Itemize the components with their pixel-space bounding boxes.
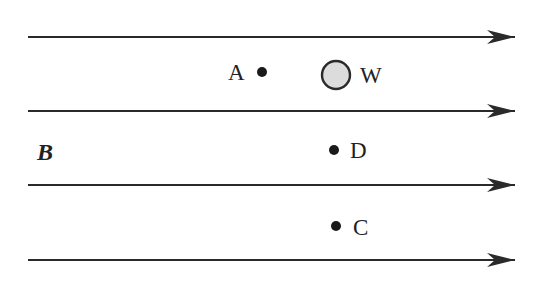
point-a-label: A bbox=[228, 60, 245, 85]
wire-label: W bbox=[360, 63, 382, 88]
field-lines bbox=[28, 37, 515, 260]
wire-circle-icon bbox=[322, 61, 350, 89]
point-c: C bbox=[331, 215, 368, 240]
magnetic-field-diagram: B A W D C bbox=[0, 0, 537, 288]
field-label-b: B bbox=[36, 139, 53, 165]
point-c-dot bbox=[331, 221, 341, 231]
wire-w: W bbox=[322, 61, 382, 89]
point-d: D bbox=[329, 138, 367, 163]
point-a-dot bbox=[257, 67, 267, 77]
point-d-dot bbox=[329, 145, 339, 155]
point-c-label: C bbox=[353, 215, 368, 240]
point-d-label: D bbox=[350, 138, 367, 163]
point-a: A bbox=[228, 60, 267, 85]
